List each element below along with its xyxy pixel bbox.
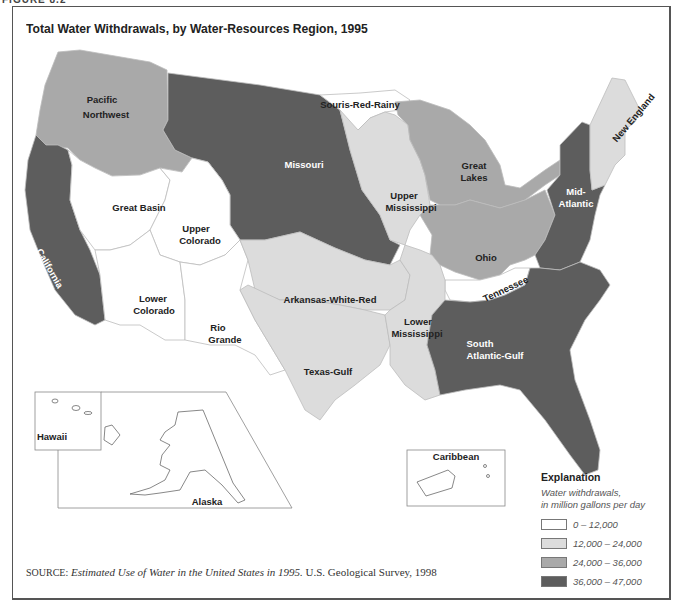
label-ohio: Ohio (475, 252, 497, 263)
legend-label: 24,000 – 36,000 (573, 557, 642, 568)
source-title: Estimated Use of Water in the United Sta… (71, 566, 303, 578)
legend-item: 24,000 – 36,000 (541, 553, 681, 572)
legend-subtitle-line2: in million gallons per day (541, 499, 681, 511)
legend-swatch (541, 576, 567, 587)
source-citation: SOURCE: Estimated Use of Water in the Un… (26, 566, 437, 578)
legend-title: Explanation (541, 471, 681, 483)
legend-label: 12,000 – 24,000 (573, 538, 642, 549)
legend-subtitle-line1: Water withdrawals, (541, 487, 681, 499)
legend: Explanation Water withdrawals, in millio… (541, 471, 681, 591)
legend-item: 36,000 – 47,000 (541, 572, 681, 591)
source-prefix: SOURCE: (26, 567, 68, 578)
label-souris-red-rainy: Souris-Red-Rainy (320, 99, 400, 110)
label-great-basin: Great Basin (112, 202, 166, 213)
legend-label: 36,000 – 47,000 (573, 576, 642, 587)
label-caribbean: Caribbean (433, 451, 480, 462)
legend-swatch (541, 519, 567, 530)
legend-swatch (541, 557, 567, 568)
label-great-lakes: GreatLakes (461, 160, 488, 183)
label-alaska: Alaska (192, 496, 223, 507)
caribbean-islands (417, 465, 490, 497)
label-missouri: Missouri (284, 159, 323, 170)
alaska-outline (130, 410, 245, 503)
legend-item: 0 – 12,000 (541, 515, 681, 534)
label-texas-gulf: Texas-Gulf (304, 366, 353, 377)
legend-swatch (541, 538, 567, 549)
legend-subtitle: Water withdrawals, in million gallons pe… (541, 487, 681, 511)
label-arkansas-white-red: Arkansas-White-Red (284, 294, 377, 305)
label-hawaii: Hawaii (37, 431, 67, 442)
source-publisher: U.S. Geological Survey, 1998 (303, 566, 437, 578)
legend-item: 12,000 – 24,000 (541, 534, 681, 553)
legend-label: 0 – 12,000 (573, 519, 618, 530)
